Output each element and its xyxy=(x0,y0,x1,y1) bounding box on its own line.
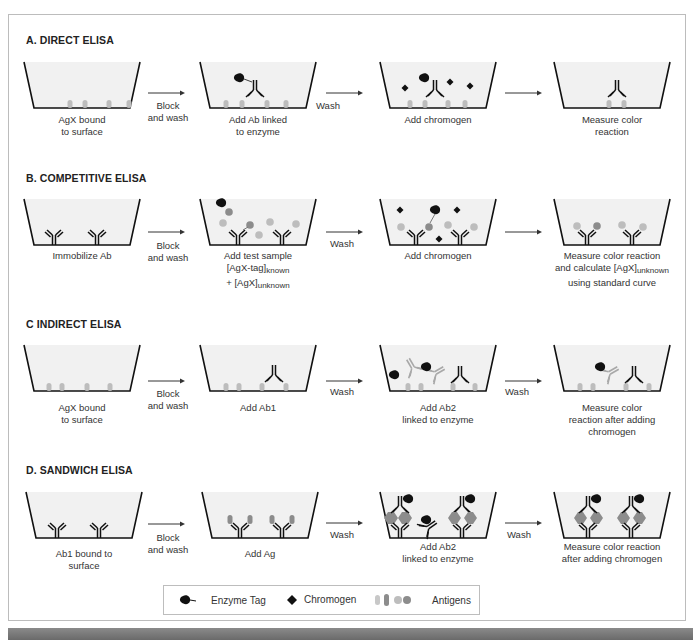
well-a4 xyxy=(552,60,672,110)
well-c2 xyxy=(198,343,318,393)
caption-d2: Add Ag xyxy=(195,548,325,560)
caption-d4: Measure color reactionafter adding chrom… xyxy=(537,541,687,565)
arrow-a1 xyxy=(148,89,188,97)
arrow-label-b1: Blockand wash xyxy=(138,240,198,264)
caption-b4: Measure color reaction and calculate [Ag… xyxy=(532,250,692,289)
well-a2 xyxy=(198,60,318,110)
caption-c3: Add Ab2linked to enzyme xyxy=(373,402,503,426)
well-d1 xyxy=(24,490,144,540)
section-title-direct-elisa: A. DIRECT ELISA xyxy=(26,34,114,46)
section-title-sandwich-elisa: D. SANDWICH ELISA xyxy=(26,464,133,476)
arrow-label-b2: Wash xyxy=(330,238,370,250)
well-b2 xyxy=(198,197,318,247)
caption-a1: AgX boundto surface xyxy=(17,114,147,138)
section-title-indirect-elisa: C INDIRECT ELISA xyxy=(26,318,122,330)
caption-b2: Add test sample [AgX-tag]known + [AgX]un… xyxy=(193,250,323,292)
legend: Enzyme Tag Chromogen Antigens xyxy=(163,585,480,615)
well-b4 xyxy=(552,197,672,247)
arrow-b2 xyxy=(326,228,366,236)
caption-b3: Add chromogen xyxy=(373,250,503,262)
legend-item-chromogen: Chromogen xyxy=(287,594,356,605)
arrow-label-c3: Wash xyxy=(505,386,545,398)
chromogen-icon xyxy=(287,595,297,605)
caption-c2: Add Ab1 xyxy=(193,402,323,414)
bottom-bar xyxy=(8,628,693,640)
arrow-c3 xyxy=(505,377,545,385)
well-a1 xyxy=(22,60,142,110)
enzyme-tag-icon xyxy=(179,594,199,606)
caption-b1: Immobilize Ab xyxy=(17,250,147,262)
well-a3 xyxy=(378,60,498,110)
arrow-label-d1: Blockand wash xyxy=(138,532,198,556)
arrow-label-d3: Wash xyxy=(507,529,547,541)
caption-a4: Measure colorreaction xyxy=(547,114,677,138)
caption-d1: Ab1 bound tosurface xyxy=(19,548,149,572)
arrow-label-a1: Blockand wash xyxy=(138,100,198,124)
caption-a3: Add chromogen xyxy=(373,114,503,126)
arrow-d2 xyxy=(326,519,366,527)
well-c3 xyxy=(378,343,498,393)
well-b3 xyxy=(378,197,498,247)
arrow-label-a2: Wash xyxy=(316,100,356,112)
well-d2 xyxy=(200,490,320,540)
caption-d3: Add Ab2linked to enzyme xyxy=(373,541,503,565)
arrow-a2 xyxy=(326,89,366,97)
legend-item-antigens: Antigens xyxy=(374,594,471,606)
antigens-icon xyxy=(374,594,414,606)
arrow-label-c2: Wash xyxy=(330,386,370,398)
arrow-b1 xyxy=(148,228,188,236)
caption-c1: AgX boundto surface xyxy=(17,402,147,426)
arrow-b3 xyxy=(505,228,545,236)
section-title-competitive-elisa: B. COMPETITIVE ELISA xyxy=(26,172,146,184)
well-b1 xyxy=(22,197,142,247)
legend-item-enzyme-tag: Enzyme Tag xyxy=(179,594,266,606)
arrow-label-c1: Blockand wash xyxy=(138,388,198,412)
well-c1 xyxy=(22,343,142,393)
caption-a2: Add Ab linkedto enzyme xyxy=(193,114,323,138)
arrow-d3 xyxy=(505,519,545,527)
well-d3 xyxy=(378,490,498,540)
arrow-a3 xyxy=(505,89,545,97)
arrow-c1 xyxy=(148,377,188,385)
arrow-label-d2: Wash xyxy=(330,529,370,541)
arrow-c2 xyxy=(326,377,366,385)
arrow-d1 xyxy=(148,520,188,528)
caption-c4: Measure colorreaction after addingchromo… xyxy=(547,402,677,438)
well-d4 xyxy=(552,490,672,540)
well-c4 xyxy=(552,343,672,393)
